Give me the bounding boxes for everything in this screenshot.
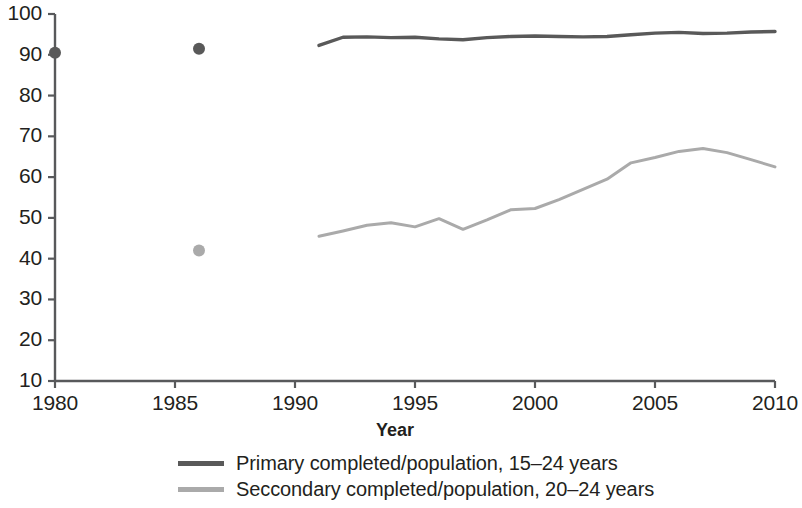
x-axis-tick-label: 1980: [10, 391, 100, 415]
y-axis-tick-label: 10: [0, 368, 42, 392]
y-axis-tick-label: 60: [0, 164, 42, 188]
x-axis-title: Year: [0, 420, 790, 441]
y-axis-tick-label: 70: [0, 123, 42, 147]
series-marker-primary: [193, 43, 205, 55]
y-axis-tick-label: 30: [0, 286, 42, 310]
y-axis-tick-label: 20: [0, 327, 42, 351]
series-line-secondary: [319, 149, 775, 237]
x-axis-tick-label: 1985: [130, 391, 220, 415]
x-axis-tick-label: 2010: [730, 391, 802, 415]
series-marker-secondary: [193, 245, 205, 257]
legend-item-primary: Primary completed/population, 15–24 year…: [0, 450, 790, 476]
legend-item-secondary: Seccondary completed/population, 20–24 y…: [0, 476, 790, 502]
y-axis-tick-label: 90: [0, 42, 42, 66]
legend-swatch-secondary: [178, 487, 224, 492]
legend-swatch-primary: [178, 461, 224, 466]
x-axis-tick-label: 1995: [370, 391, 460, 415]
x-axis-tick-label: 2000: [490, 391, 580, 415]
chart-legend: Primary completed/population, 15–24 year…: [0, 450, 790, 502]
y-axis-tick-label: 40: [0, 246, 42, 270]
legend-label-secondary: Seccondary completed/population, 20–24 y…: [236, 478, 654, 501]
y-axis-tick-label: 50: [0, 205, 42, 229]
series-line-primary: [319, 32, 775, 46]
x-axis-tick-label: 2005: [610, 391, 700, 415]
y-axis-tick-label: 100: [0, 1, 42, 25]
x-axis-tick-label: 1990: [250, 391, 340, 415]
series-marker-primary: [49, 47, 61, 59]
legend-label-primary: Primary completed/population, 15–24 year…: [236, 452, 618, 475]
y-axis-tick-label: 80: [0, 83, 42, 107]
